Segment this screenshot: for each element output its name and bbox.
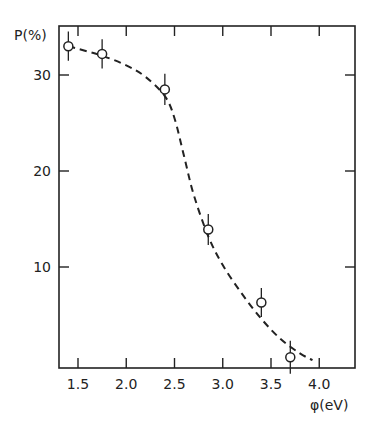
y-tick-label: 20	[33, 163, 51, 179]
y-tick-label: 10	[33, 259, 51, 275]
data-point-marker	[160, 85, 169, 94]
chart: 1.52.02.53.03.54.0 102030 P(%) φ(eV)	[0, 0, 375, 433]
y-tick-label: 30	[33, 67, 51, 83]
x-tick-label: 1.5	[67, 376, 89, 392]
x-tick-label: 3.0	[212, 376, 234, 392]
data-point-marker	[98, 49, 107, 58]
y-axis-label: P(%)	[14, 27, 47, 43]
data-point-marker	[64, 42, 73, 51]
x-axis-label: φ(eV)	[310, 397, 348, 413]
x-tick-label: 4.0	[308, 376, 330, 392]
x-tick-label: 2.5	[163, 376, 185, 392]
y-axis-ticks: 102030	[33, 67, 355, 275]
x-tick-label: 2.0	[115, 376, 137, 392]
data-point-marker	[204, 225, 213, 234]
data-point-marker	[286, 353, 295, 362]
fit-curve	[68, 46, 312, 360]
data-points	[64, 32, 295, 374]
plot-frame	[59, 26, 355, 368]
x-tick-label: 3.5	[260, 376, 282, 392]
data-point-marker	[257, 298, 266, 307]
